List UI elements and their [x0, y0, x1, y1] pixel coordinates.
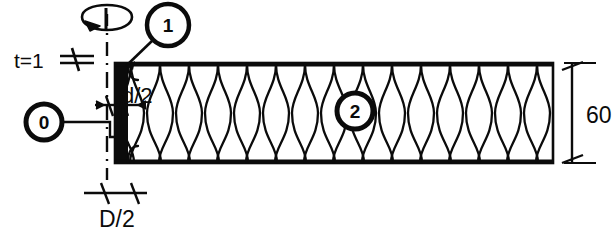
- balloon-1-label: 1: [157, 16, 179, 35]
- wire-radius-label: d/2: [122, 85, 153, 107]
- balloon-0-leader: [62, 122, 116, 137]
- balloon-2-label: 2: [344, 102, 366, 121]
- height-label: 60: [586, 104, 612, 127]
- winding-body-outline: [115, 63, 553, 163]
- drawing-svg: [0, 0, 615, 246]
- mandrel-radius-dimension: [84, 183, 147, 204]
- technical-drawing-canvas: t=1 d/2 D/2 60 0 1 2: [0, 0, 615, 246]
- rotation-arrow-icon: [82, 5, 132, 31]
- mandrel-radius-label: D/2: [99, 208, 135, 231]
- thickness-dimension-symbol: [60, 48, 94, 71]
- balloon-0-label: 0: [33, 113, 55, 132]
- thickness-label: t=1: [14, 50, 44, 71]
